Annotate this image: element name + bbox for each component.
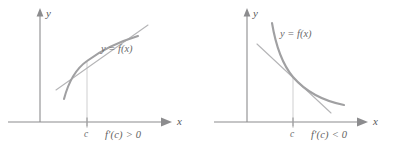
y-axis-left bbox=[37, 8, 44, 122]
condition-label-left: f'(c) > 0 bbox=[105, 129, 142, 141]
x-axis-label-left: x bbox=[176, 115, 182, 127]
condition-label-right: f'(c) < 0 bbox=[311, 129, 348, 141]
y-axis-label-right: y bbox=[252, 7, 258, 19]
x-axis-label-right: x bbox=[372, 115, 378, 127]
derivative-sign-figure: y x y = f(x) c f'(c) > 0 bbox=[0, 0, 396, 157]
x-axis-left bbox=[8, 118, 172, 127]
panel-increasing: y x y = f(x) c f'(c) > 0 bbox=[0, 0, 198, 157]
x-axis-right bbox=[214, 118, 368, 127]
curve-label-left: y = f(x) bbox=[100, 43, 133, 55]
curve-label-right: y = f(x) bbox=[279, 28, 312, 40]
panel-decreasing: y x y = f(x) c f'(c) < 0 bbox=[198, 0, 396, 157]
y-axis-right bbox=[244, 8, 251, 122]
y-axis-label-left: y bbox=[45, 7, 51, 19]
tick-label-c-right: c bbox=[290, 129, 295, 139]
tick-label-c-left: c bbox=[84, 129, 89, 139]
